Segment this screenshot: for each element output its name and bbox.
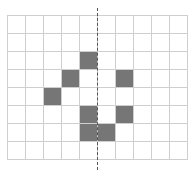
grid-cell [25,105,43,123]
grid-cell [169,69,187,87]
grid-cell [169,15,187,33]
grid-cell [61,123,79,141]
grid-cell-filled [79,123,97,141]
grid-cell [151,87,169,105]
grid-cell [25,33,43,51]
grid-cell [97,33,115,51]
grid-cell [43,33,61,51]
grid-cell [151,123,169,141]
grid-cell [61,51,79,69]
grid-cell [97,105,115,123]
grid-cell-filled [115,69,133,87]
grid-cell [151,33,169,51]
grid-cell-filled [61,69,79,87]
grid-cell [61,33,79,51]
grid-cell-filled [43,87,61,105]
grid-cell [133,69,151,87]
grid-cell [151,141,169,159]
grid-cell [133,15,151,33]
grid-cell [7,87,25,105]
grid-cell [61,141,79,159]
grid-cell [61,105,79,123]
grid-cell [97,51,115,69]
grid-cell [97,69,115,87]
grid-cell [25,141,43,159]
grid-cell [169,105,187,123]
grid-cell [133,141,151,159]
grid-cell [169,141,187,159]
grid-cell [43,123,61,141]
grid-cell [115,141,133,159]
grid-cell [43,15,61,33]
grid-cell [7,15,25,33]
symmetry-axis-dashed-line [97,8,98,170]
grid-cell [7,51,25,69]
grid-cell [7,69,25,87]
grid-cell [133,123,151,141]
grid-cell [43,141,61,159]
grid-cell [7,105,25,123]
grid-cell [115,51,133,69]
grid-cell-filled [97,123,115,141]
grid-cell [7,141,25,159]
grid-cell [115,123,133,141]
grid-cell [25,15,43,33]
grid-cell [43,51,61,69]
grid-cell [97,87,115,105]
grid-cell [25,87,43,105]
grid-cell [97,141,115,159]
grid-cell [169,33,187,51]
grid-cell [25,123,43,141]
grid-cell [79,33,97,51]
grid-cell [169,87,187,105]
grid-cell [61,15,79,33]
grid-cell [43,69,61,87]
grid-cell [43,105,61,123]
grid-cell [79,87,97,105]
grid-cell [151,105,169,123]
grid-cell [79,141,97,159]
grid-cell [7,33,25,51]
grid-cell [115,33,133,51]
grid-cell [169,51,187,69]
grid-cell [25,51,43,69]
grid-cell [133,51,151,69]
grid-cell [79,69,97,87]
grid-cell-filled [79,105,97,123]
grid-cell [115,87,133,105]
grid-cell [25,69,43,87]
grid-cell-filled [115,105,133,123]
grid-cell [133,33,151,51]
grid-cell [133,105,151,123]
grid-cell [151,69,169,87]
grid-cell [115,15,133,33]
grid-cell [97,15,115,33]
grid-cell [133,87,151,105]
grid-cell [151,15,169,33]
grid-cell [61,87,79,105]
grid-cell [79,15,97,33]
grid-cell [7,123,25,141]
grid-cell [151,51,169,69]
grid-cell-filled [79,51,97,69]
grid-cell [169,123,187,141]
